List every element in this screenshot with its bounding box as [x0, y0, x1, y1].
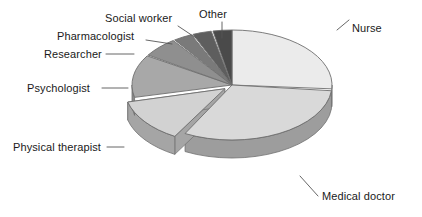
slice-label-social-worker: Social worker — [105, 12, 172, 24]
slice-label-psychologist: Psychologist — [27, 82, 90, 94]
pie-chart: Nurse Medical doctor Physical therapist … — [0, 0, 422, 217]
slice-label-other: Other — [199, 8, 227, 20]
pie-top-faces — [128, 30, 332, 140]
slice-label-nurse: Nurse — [352, 22, 382, 34]
slice-label-pharmacologist: Pharmacologist — [57, 30, 134, 42]
pie-slice-nurse — [232, 30, 332, 89]
slice-label-researcher: Researcher — [44, 48, 102, 60]
leader-line-medical-doctor — [300, 176, 318, 196]
slice-label-medical-doctor: Medical doctor — [322, 190, 395, 202]
leader-line-nurse — [337, 20, 349, 30]
slice-label-physical-therapist: Physical therapist — [13, 141, 101, 153]
leader-line-pharmacologist — [146, 40, 172, 44]
